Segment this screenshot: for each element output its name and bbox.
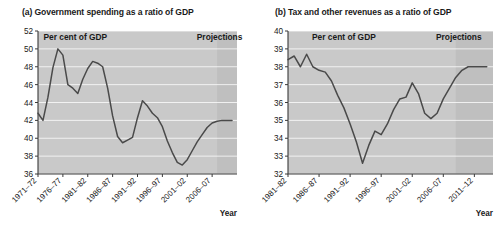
x-tick-label: 1996–97 [353, 176, 382, 205]
x-tick-label: 1971–72 [10, 176, 39, 205]
annotation-projections: Projections [197, 32, 243, 42]
x-axis-name: Year [476, 209, 494, 218]
x-tick-label: 2011–12 [447, 176, 475, 204]
x-tick-label: 1986–87 [291, 176, 320, 205]
y-tick-label: 40 [24, 134, 34, 143]
x-tick-label: 1991–92 [110, 176, 139, 205]
x-tick-label: 1996–97 [134, 176, 163, 205]
y-tick-label: 33 [274, 152, 284, 161]
figure-container: (a) Government spending as a ratio of GD… [0, 0, 501, 246]
y-tick-label: 34 [274, 134, 284, 143]
x-tick-label: 1981–82 [60, 176, 89, 205]
y-tick-label: 37 [274, 81, 284, 90]
x-tick-label: 2001–02 [384, 176, 413, 205]
y-tick-label: 35 [274, 116, 284, 125]
x-tick-label: 1986–87 [85, 176, 114, 205]
y-tick-label: 42 [24, 116, 34, 125]
chart-panel-b: (b) Tax and other revenues as a ratio of… [250, 0, 500, 246]
panel-b-svg: 4039383736353433321981–821986–871991–921… [250, 0, 501, 246]
y-tick-label: 48 [24, 63, 34, 72]
x-tick-label: 2006–07 [415, 176, 444, 205]
y-tick-label: 44 [24, 99, 34, 108]
x-tick-label: 2001–02 [159, 176, 188, 205]
x-tick-label: 2006–07 [184, 176, 213, 205]
y-tick-label: 46 [24, 81, 34, 90]
chart-panel-a: (a) Government spending as a ratio of GD… [0, 0, 250, 246]
annotation-per-cent-of-gdp: Per cent of GDP [43, 32, 107, 42]
x-tick-label: 1981–82 [260, 176, 289, 205]
annotation-projections: Projections [436, 32, 482, 42]
y-tick-label: 38 [24, 152, 34, 161]
x-tick-label: 1991–92 [322, 176, 351, 205]
panel-a-svg: 5250484644424038361971–721976–771981–821… [0, 0, 250, 246]
panel-a-plot-area: 5250484644424038361971–721976–771981–821… [0, 0, 250, 246]
y-tick-label: 50 [24, 45, 34, 54]
x-axis-name: Year [220, 209, 238, 218]
panel-b-plot-area: 4039383736353433321981–821986–871991–921… [250, 0, 500, 246]
x-tick-label: 1976–77 [35, 176, 64, 205]
annotation-per-cent-of-gdp: Per cent of GDP [312, 32, 376, 42]
y-tick-label: 38 [274, 63, 284, 72]
y-tick-label: 36 [274, 99, 284, 108]
y-tick-label: 52 [24, 27, 34, 36]
y-tick-label: 40 [274, 27, 284, 36]
y-tick-label: 39 [274, 45, 284, 54]
